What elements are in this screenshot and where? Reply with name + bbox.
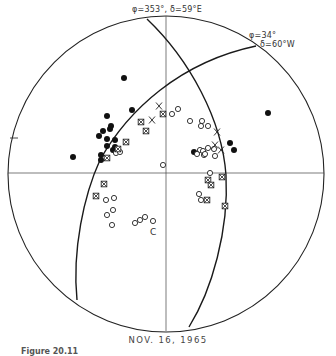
dilatation-point	[202, 151, 207, 156]
compression-point	[104, 113, 110, 119]
boxed-x-point	[104, 155, 110, 161]
boxed-x-point	[115, 146, 121, 152]
compression-point	[104, 143, 110, 149]
boxed-x-point	[123, 139, 129, 145]
compression-point	[96, 133, 102, 139]
dilatation-point	[207, 170, 212, 175]
boxed-x-point	[219, 174, 225, 180]
compression-point	[70, 154, 76, 160]
plane2-label-phi: φ=34°	[249, 31, 276, 40]
compression-point	[98, 157, 104, 163]
boxed-x-point	[160, 111, 166, 117]
dilatation-point	[196, 191, 201, 196]
dilatation-point	[104, 212, 109, 217]
nodal-x-point	[156, 103, 162, 110]
data-points	[70, 75, 271, 228]
compression-point	[112, 137, 118, 143]
boxed-x-point	[143, 128, 149, 134]
compression-point	[100, 128, 106, 134]
dilatation-point	[169, 111, 174, 116]
compression-point	[104, 136, 110, 142]
compression-point	[129, 107, 135, 113]
dilatation-point	[211, 146, 216, 151]
dilatation-point	[142, 214, 147, 219]
dilatation-point	[175, 106, 180, 111]
dilatation-point	[205, 123, 210, 128]
plane2-label-delta: δ=60°W	[260, 40, 295, 49]
boxed-x-point	[204, 197, 210, 203]
plane1-label: φ=353°, δ=59°E	[132, 5, 202, 14]
dilatation-point	[199, 118, 204, 123]
compression-point	[121, 75, 127, 81]
dilatation-point	[150, 218, 155, 223]
dilatation-point	[110, 207, 115, 212]
dilatation-point	[205, 145, 210, 150]
dilatation-point	[109, 222, 114, 227]
boxed-x-point	[101, 181, 107, 187]
dilatation-point	[198, 123, 203, 128]
compression-point	[231, 147, 237, 153]
boxed-x-point	[138, 119, 144, 125]
compression-point	[227, 140, 233, 146]
open-circle-c-label: C	[150, 227, 156, 237]
dilatation-point	[212, 153, 217, 158]
dilatation-point	[198, 197, 203, 202]
dilatation-point	[194, 151, 199, 156]
nodal-x-point	[149, 117, 155, 124]
event-date: NOV. 16, 1965	[0, 335, 336, 345]
boxed-x-point	[222, 203, 228, 209]
dilatation-point	[137, 217, 142, 222]
dilatation-point	[187, 118, 192, 123]
dilatation-point	[160, 162, 165, 167]
dilatation-point	[111, 195, 116, 200]
compression-point	[265, 110, 271, 116]
boxed-x-point	[93, 193, 99, 199]
figure-caption: Figure 20.11	[21, 347, 78, 356]
dilatation-point	[103, 197, 108, 202]
boxed-x-point	[208, 182, 214, 188]
dilatation-point	[132, 220, 137, 225]
compression-point	[107, 126, 113, 132]
